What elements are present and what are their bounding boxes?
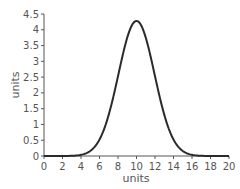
y-axis-title: units	[9, 71, 22, 98]
x-tick-label: 20	[223, 161, 236, 172]
x-tick-label: 0	[41, 161, 47, 172]
y-tick-label: 0.5	[23, 135, 39, 146]
x-tick-label: 8	[115, 161, 121, 172]
chart: 00.511.522.533.544.5 02468101214161820 u…	[0, 0, 240, 189]
y-tick-label: 1	[33, 119, 39, 130]
y-tick-label: 1.5	[23, 103, 39, 114]
x-tick-label: 4	[78, 161, 84, 172]
x-tick-label: 10	[130, 161, 143, 172]
data-curve	[44, 21, 229, 156]
x-tick-label: 2	[59, 161, 65, 172]
y-tick-label: 0	[33, 151, 39, 162]
x-tick-label: 6	[96, 161, 102, 172]
y-tick-label: 2	[33, 87, 39, 98]
x-axis-ticks: 02468101214161820	[41, 156, 236, 172]
x-tick-label: 12	[149, 161, 162, 172]
x-tick-label: 16	[186, 161, 199, 172]
y-tick-label: 3.5	[23, 40, 39, 51]
x-axis-title: units	[122, 172, 149, 185]
y-tick-label: 4	[33, 24, 39, 35]
y-tick-label: 3	[33, 56, 39, 67]
y-tick-label: 4.5	[23, 9, 39, 20]
x-tick-label: 18	[204, 161, 217, 172]
y-tick-label: 2.5	[23, 72, 39, 83]
x-tick-label: 14	[167, 161, 180, 172]
y-axis-ticks: 00.511.522.533.544.5	[23, 9, 44, 162]
